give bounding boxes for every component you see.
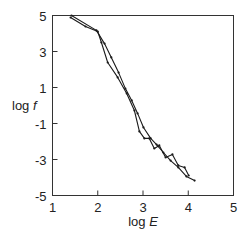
- series-b-point: [165, 156, 167, 158]
- series-a-point: [136, 112, 138, 114]
- series-a-point: [142, 126, 144, 128]
- series-b-point: [133, 109, 135, 111]
- y-tick-label: -3: [35, 153, 47, 168]
- y-tick-label: 5: [39, 9, 46, 24]
- plot-frame: [53, 16, 234, 196]
- series-a-point: [177, 166, 179, 168]
- series-b-point: [126, 92, 128, 94]
- series-a-point: [70, 14, 72, 16]
- x-tick-label: 2: [94, 200, 101, 215]
- series-a-point: [185, 175, 187, 177]
- series-b-point: [84, 25, 86, 27]
- series-a-point: [117, 71, 119, 73]
- y-tick-label: -5: [35, 189, 47, 204]
- series-b-point: [138, 130, 140, 132]
- series-b-point: [171, 153, 173, 155]
- series-b-point: [153, 147, 155, 149]
- series-b-point: [158, 144, 160, 146]
- x-tick-label: 4: [185, 200, 192, 215]
- y-tick-label: -1: [35, 117, 47, 132]
- series-layer: [70, 14, 196, 181]
- x-axis: 12345: [49, 191, 237, 215]
- series-b-point: [70, 16, 72, 18]
- series-a-point: [170, 159, 172, 161]
- x-tick-label: 1: [49, 200, 56, 215]
- series-b-point: [143, 137, 145, 139]
- y-tick-label: 1: [39, 81, 46, 96]
- series-b-point: [148, 137, 150, 139]
- series-b-point: [107, 61, 109, 63]
- series-b-point: [184, 166, 186, 168]
- series-b-point: [100, 41, 102, 43]
- chart: 12345 531-1-3-5 log E log f: [0, 0, 247, 235]
- y-axis-label: log f: [12, 98, 38, 113]
- series-a-point: [131, 99, 133, 101]
- series-a-point: [193, 179, 195, 181]
- y-tick-label: 3: [39, 45, 46, 60]
- series-a-point: [103, 42, 105, 44]
- series-b-point: [97, 30, 99, 32]
- series-a-point: [110, 56, 112, 58]
- x-tick-label: 5: [230, 200, 237, 215]
- series-a-line: [72, 16, 195, 181]
- series-a-point: [155, 143, 157, 145]
- series-b-point: [117, 76, 119, 78]
- x-tick-label: 3: [139, 200, 146, 215]
- series-b-point: [188, 174, 190, 176]
- x-axis-label: log E: [128, 214, 158, 229]
- y-axis: 531-1-3-5: [35, 9, 58, 204]
- series-b-point: [177, 164, 179, 166]
